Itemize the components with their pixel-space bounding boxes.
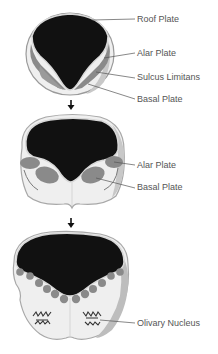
label-basal-plate-stage-2: Basal Plate [137, 182, 183, 192]
label-alar-plate: Alar Plate [137, 48, 176, 58]
label-basal-plate: Basal Plate [137, 94, 183, 104]
label-alar-plate-stage-2: Alar Plate [137, 160, 176, 170]
arrow-down-icon [68, 100, 75, 110]
label-roof-plate: Roof Plate [137, 14, 179, 24]
arrow-down-icon [68, 218, 75, 228]
stage-3-medulla [13, 231, 128, 339]
stage-2-left-alar [20, 157, 40, 169]
stage-2-intermediate [20, 115, 124, 209]
label-olivary-nucleus: Olivary Nucleus [137, 318, 200, 328]
development-diagram [0, 0, 218, 354]
stage-1-neural-tube [26, 13, 114, 95]
label-sulcus-limitans: Sulcus Limitans [137, 72, 200, 82]
